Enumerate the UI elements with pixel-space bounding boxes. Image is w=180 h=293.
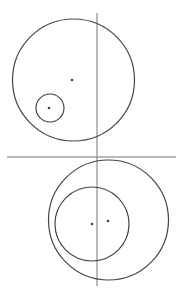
bottom-inner-center-dot — [91, 223, 94, 226]
top-big-center-dot — [71, 79, 74, 82]
circles-diagram — [0, 0, 180, 293]
bottom-big-center-dot — [107, 220, 110, 223]
top-small-center-dot — [48, 107, 51, 110]
top-big-circle — [13, 19, 135, 141]
